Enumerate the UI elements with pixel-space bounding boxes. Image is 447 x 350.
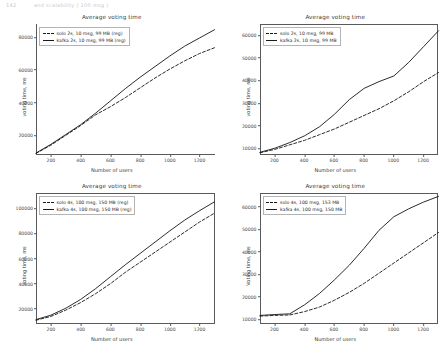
legend-item[interactable]: kafka 2s, 10 msg, 99 MB — [266, 38, 337, 43]
legend-line-icon — [266, 38, 277, 42]
y-tick-mark — [258, 297, 260, 298]
legend: solo 2s, 10 msg, 99 MB (reg)kafka 2s, 10… — [39, 27, 130, 46]
y-tick-label: 40000 — [242, 78, 257, 83]
x-tick-label: 600 — [106, 158, 115, 163]
x-tick-label: 1000 — [164, 327, 176, 332]
legend-item[interactable]: solo 2s, 10 msg, 99 MB — [266, 31, 337, 36]
series-line — [36, 213, 215, 320]
x-tick-label: 1000 — [388, 327, 400, 332]
x-tick-label: 600 — [329, 327, 338, 332]
y-tick-label: 30000 — [242, 272, 257, 277]
legend-label: kafka 2s, 10 msg, 99 MB — [280, 38, 337, 43]
x-tick-mark — [170, 155, 171, 157]
x-tick-label: 200 — [46, 327, 55, 332]
chart-cell-bottom-right: Average voting time Voting time, ms Numb… — [224, 181, 447, 350]
y-tick-mark — [34, 309, 36, 310]
y-tick-mark — [258, 80, 260, 81]
x-axis-label: Number of users — [224, 336, 447, 342]
x-tick-label: 600 — [329, 158, 338, 163]
x-tick-mark — [170, 324, 171, 326]
chart-grid: Average voting time voting time, ms Numb… — [0, 12, 447, 350]
legend-item[interactable]: kafka 4s, 100 msg, 150 MB — [266, 207, 342, 212]
x-tick-mark — [51, 155, 52, 157]
legend-line-icon — [266, 207, 277, 211]
x-tick-mark — [423, 324, 424, 326]
x-tick-label: 200 — [46, 158, 55, 163]
chart-title: Average voting time — [0, 183, 224, 189]
legend-label: kafka 4s, 100 msg, 150 MB — [280, 207, 342, 212]
x-tick-label: 200 — [270, 327, 279, 332]
x-tick-mark — [51, 324, 52, 326]
x-tick-mark — [393, 155, 394, 157]
legend-label: solo 2s, 10 msg, 99 MB (reg) — [57, 31, 123, 36]
x-tick-label: 400 — [76, 327, 85, 332]
y-tick-mark — [258, 125, 260, 126]
legend-item[interactable]: kafka 2s, 10 msg, 99 MB (reg) — [43, 38, 126, 43]
x-tick-label: 400 — [300, 158, 309, 163]
x-axis-label: Number of users — [0, 167, 224, 173]
y-tick-label: 10000 — [242, 317, 257, 322]
legend-label: solo 2s, 10 msg, 99 MB — [280, 31, 333, 36]
y-tick-label: 30000 — [242, 101, 257, 106]
y-tick-label: 60000 — [242, 204, 257, 209]
series-line — [260, 73, 439, 153]
y-tick-label: 60000 — [242, 33, 257, 38]
page-header: 142 and scalability ( 100 msg ) — [6, 2, 441, 12]
x-tick-mark — [274, 324, 275, 326]
x-tick-label: 1200 — [417, 158, 429, 163]
y-axis-label: voting time, ms — [21, 246, 27, 285]
x-tick-label: 800 — [359, 327, 368, 332]
y-tick-label: 20000 — [242, 294, 257, 299]
y-tick-label: 50000 — [242, 227, 257, 232]
chart-title: Average voting time — [224, 183, 447, 189]
plot-area: solo 2s, 10 msg, 99 MBkafka 2s, 10 msg, … — [260, 24, 439, 155]
y-tick-mark — [258, 229, 260, 230]
series-line — [36, 30, 215, 153]
legend: solo 4s, 100 msg, 153 MBkafka 4s, 100 ms… — [263, 196, 347, 215]
legend-item[interactable]: solo 4s, 100 msg, 153 MB — [266, 200, 342, 205]
y-tick-label: 20000 — [242, 123, 257, 128]
chart-title: Average voting time — [224, 14, 447, 20]
x-tick-mark — [140, 324, 141, 326]
y-tick-mark — [34, 102, 36, 103]
legend-item[interactable]: solo 4s, 100 msg, 150 MB (reg) — [43, 200, 132, 205]
y-tick-mark — [34, 135, 36, 136]
plot-area: solo 4s, 100 msg, 150 MB (reg)kafka 4s, … — [36, 193, 215, 324]
series-line — [36, 202, 215, 320]
y-tick-label: 60000 — [18, 67, 33, 72]
x-tick-mark — [364, 324, 365, 326]
y-tick-mark — [34, 258, 36, 259]
y-tick-mark — [34, 70, 36, 71]
x-tick-label: 800 — [136, 158, 145, 163]
y-tick-mark — [258, 58, 260, 59]
series-line — [260, 233, 439, 317]
x-tick-mark — [110, 324, 111, 326]
x-tick-mark — [81, 324, 82, 326]
y-tick-mark — [258, 103, 260, 104]
x-tick-mark — [304, 155, 305, 157]
y-tick-mark — [258, 35, 260, 36]
y-axis-label: voting time, ms — [21, 77, 27, 116]
legend-line-icon — [266, 31, 277, 35]
y-tick-mark — [34, 37, 36, 38]
y-tick-mark — [34, 233, 36, 234]
x-tick-label: 1200 — [194, 158, 206, 163]
x-tick-mark — [274, 155, 275, 157]
y-tick-mark — [34, 283, 36, 284]
legend-line-icon — [43, 207, 54, 211]
legend-item[interactable]: kafka 4s, 100 msg, 150 MB (reg) — [43, 207, 132, 212]
plot-area: solo 2s, 10 msg, 99 MB (reg)kafka 2s, 10… — [36, 24, 215, 155]
x-tick-mark — [334, 155, 335, 157]
chart-title: Average voting time — [0, 14, 224, 20]
x-tick-label: 800 — [136, 327, 145, 332]
y-tick-label: 60000 — [18, 256, 33, 261]
y-tick-label: 100000 — [15, 206, 33, 211]
legend-label: solo 4s, 100 msg, 150 MB (reg) — [57, 200, 129, 205]
x-tick-mark — [200, 324, 201, 326]
y-tick-label: 40000 — [18, 281, 33, 286]
legend-line-icon — [43, 31, 54, 35]
x-tick-label: 1000 — [388, 158, 400, 163]
legend-item[interactable]: solo 2s, 10 msg, 99 MB (reg) — [43, 31, 126, 36]
x-tick-mark — [423, 155, 424, 157]
y-tick-label: 20000 — [18, 306, 33, 311]
